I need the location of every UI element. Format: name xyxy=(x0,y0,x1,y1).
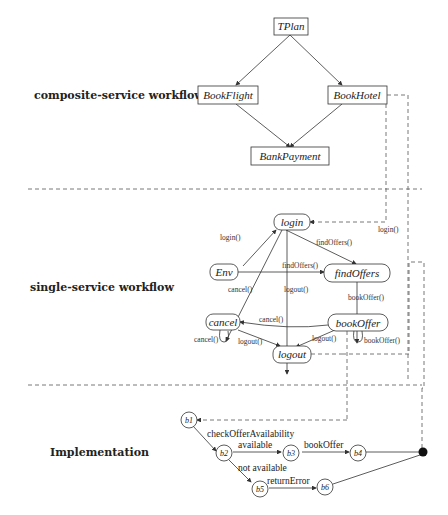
section-label-single: single-service workflow xyxy=(30,281,174,294)
svg-text:b2: b2 xyxy=(220,449,228,458)
svg-text:bookOffer(): bookOffer() xyxy=(348,293,385,302)
svg-text:cancel: cancel xyxy=(209,316,238,328)
svg-text:login(): login() xyxy=(378,225,399,234)
svg-text:logout(): logout() xyxy=(238,337,263,346)
state-b4: b4 xyxy=(350,445,366,461)
svg-text:not available: not available xyxy=(238,463,287,473)
svg-text:findOffers: findOffers xyxy=(335,267,380,279)
svg-text:cancel(): cancel() xyxy=(259,315,284,324)
state-b5: b5 xyxy=(252,481,268,497)
svg-text:checkOfferAvailability: checkOfferAvailability xyxy=(207,429,294,439)
svg-text:BookHotel: BookHotel xyxy=(333,89,380,101)
state-b3: b3 xyxy=(283,445,299,461)
node-bankpayment: BankPayment xyxy=(251,147,329,165)
svg-text:cancel(): cancel() xyxy=(228,285,253,294)
svg-text:Env: Env xyxy=(214,266,232,278)
node-tplan: TPlan xyxy=(274,18,308,35)
bookoffer-self-loop xyxy=(354,330,363,342)
node-bookflight: BookFlight xyxy=(198,86,258,104)
section-label-implementation: Implementation xyxy=(50,446,149,459)
node-login: login xyxy=(274,214,310,230)
node-logout: logout xyxy=(273,346,311,363)
svg-text:login(): login() xyxy=(220,233,241,242)
node-cancel: cancel xyxy=(206,314,240,330)
svg-text:cancel(): cancel() xyxy=(194,335,219,344)
final-state xyxy=(419,448,428,457)
section-label-composite: composite-service workflow xyxy=(34,89,204,102)
svg-text:bookOffer: bookOffer xyxy=(304,440,344,450)
state-b1: b1 xyxy=(181,412,197,428)
svg-text:logout(): logout() xyxy=(312,334,337,343)
svg-text:findOffers(): findOffers() xyxy=(282,261,319,270)
cancel-self-loop xyxy=(220,330,229,342)
svg-text:logout: logout xyxy=(278,348,307,360)
svg-text:findOffers(): findOffers() xyxy=(316,238,353,247)
svg-text:bookOffer(): bookOffer() xyxy=(364,336,401,345)
svg-text:b4: b4 xyxy=(354,449,362,458)
svg-text:b1: b1 xyxy=(185,416,193,425)
node-env: Env xyxy=(210,264,238,280)
svg-text:login: login xyxy=(281,216,304,228)
svg-text:BankPayment: BankPayment xyxy=(259,150,321,162)
svg-text:BookFlight: BookFlight xyxy=(203,89,253,101)
workflow-diagram: composite-service workflow single-servic… xyxy=(0,0,448,515)
node-bookoffer: bookOffer xyxy=(328,314,388,331)
state-b6: b6 xyxy=(317,479,333,495)
svg-text:b5: b5 xyxy=(256,485,264,494)
state-b2: b2 xyxy=(216,445,232,461)
svg-text:bookOffer: bookOffer xyxy=(336,317,381,329)
svg-text:returnError: returnError xyxy=(267,476,311,486)
svg-text:b6: b6 xyxy=(321,483,329,492)
svg-text:TPlan: TPlan xyxy=(278,20,305,32)
svg-text:logout(): logout() xyxy=(284,285,309,294)
svg-text:available: available xyxy=(238,440,272,450)
node-bookhotel: BookHotel xyxy=(328,86,387,104)
svg-text:b3: b3 xyxy=(287,449,295,458)
node-findoffers: findOffers xyxy=(324,264,390,282)
